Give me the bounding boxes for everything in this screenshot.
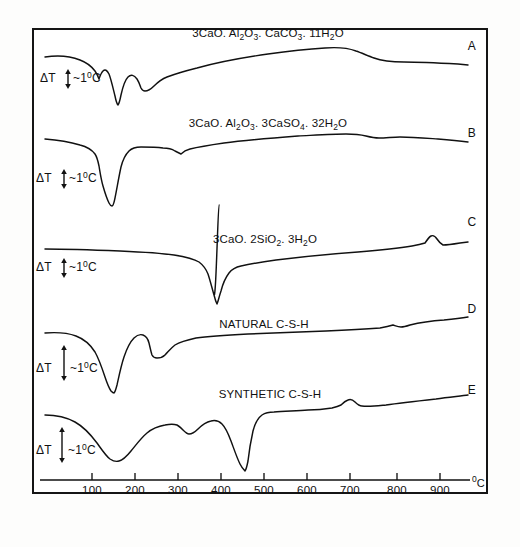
x-axis-unit-label: 0C: [472, 474, 485, 489]
x-tick-label-200: 200: [125, 484, 145, 496]
x-tick-label-900: 900: [430, 484, 450, 496]
trace-e: [45, 395, 468, 471]
curve-group-c: 3CaO. 2SiO2. 3H2O C ΔT ~10C: [36, 205, 477, 304]
scale-marker-c-value: ~10C: [69, 259, 97, 274]
curve-letter-d: D: [467, 302, 476, 316]
x-tick-label-800: 800: [387, 484, 407, 496]
curve-e-sample-label: SYNTHETIC C-S-H: [219, 388, 322, 400]
trace-a: [45, 48, 468, 105]
curve-group-b: 3CaO. Al2O3. 3CaSO4. 32H2O B ΔT ~10C: [36, 117, 476, 206]
scale-marker-d: ΔT ~10C: [36, 345, 98, 381]
curve-letter-e: E: [468, 383, 476, 397]
curve-letter-b: B: [468, 126, 476, 140]
scale-marker-b: ΔT ~10C: [36, 169, 97, 189]
trace-c: [45, 205, 468, 304]
scale-marker-d-value: ~10C: [70, 360, 98, 375]
x-tick-label-600: 600: [297, 484, 317, 496]
scale-marker-e-value: ~10C: [68, 442, 96, 457]
x-tick-label-700: 700: [340, 484, 360, 496]
curve-group-e: SYNTHETIC C-S-H E ΔT ~10C: [36, 383, 476, 471]
curve-group-d: NATURAL C-S-H D ΔT ~10C: [36, 302, 477, 393]
x-axis-tick-labels: 100 200 300 400 500 600 700 800 900: [82, 484, 450, 496]
curve-letter-c: C: [467, 215, 476, 229]
trace-b: [45, 134, 468, 206]
curve-d-sample-label: NATURAL C-S-H: [219, 318, 308, 330]
dta-plot: 3CaO. Al2O3. CaCO3. 11H2O A ΔT ~10C 3CaO…: [0, 0, 520, 547]
scale-marker-a-value: ~10C: [73, 70, 101, 85]
x-tick-label-300: 300: [168, 484, 188, 496]
scale-marker-c: ΔT ~10C: [36, 258, 97, 278]
x-axis-ticks: [92, 473, 440, 480]
figure-root: 3CaO. Al2O3. CaCO3. 11H2O A ΔT ~10C 3CaO…: [0, 0, 520, 547]
curve-a-sample-label: 3CaO. Al2O3. CaCO3. 11H2O: [192, 27, 344, 42]
x-tick-label-500: 500: [254, 484, 274, 496]
scale-marker-c-text: ΔT: [36, 260, 52, 274]
curve-letter-a: A: [468, 39, 476, 53]
scale-marker-a-text: ΔT: [40, 71, 56, 85]
curve-group-a: 3CaO. Al2O3. CaCO3. 11H2O A ΔT ~10C: [40, 27, 476, 105]
x-axis: 100 200 300 400 500 600 700 800 900 0C: [40, 473, 485, 496]
x-tick-label-100: 100: [82, 484, 102, 496]
scale-marker-e: ΔT ~10C: [36, 427, 96, 463]
scale-marker-b-text: ΔT: [36, 171, 52, 185]
scale-marker-d-text: ΔT: [36, 361, 52, 375]
scale-marker-b-value: ~10C: [69, 170, 97, 185]
curve-c-sample-label: 3CaO. 2SiO2. 3H2O: [213, 233, 317, 248]
curve-b-sample-label: 3CaO. Al2O3. 3CaSO4. 32H2O: [189, 117, 347, 132]
scale-marker-e-text: ΔT: [36, 443, 52, 457]
scale-marker-a: ΔT ~10C: [40, 69, 101, 89]
x-tick-label-400: 400: [211, 484, 231, 496]
